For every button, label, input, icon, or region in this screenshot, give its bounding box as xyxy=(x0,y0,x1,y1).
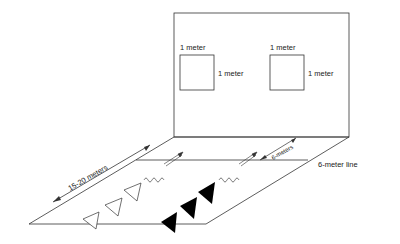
six-meter-line-label: 6-meter line xyxy=(318,160,358,169)
player-black-3 xyxy=(198,182,215,204)
target-square-right xyxy=(270,55,304,90)
player-black-2 xyxy=(180,197,197,219)
target-left-top-label: 1 meter xyxy=(180,43,206,52)
target-right-top-label: 1 meter xyxy=(270,43,296,52)
throw-path-left xyxy=(144,152,183,182)
throw-path-right xyxy=(219,152,257,182)
target-left-side-label: 1 meter xyxy=(218,69,244,78)
throwing-drill-diagram: 1 meter 1 meter 1 meter 1 meter 6-meter … xyxy=(0,0,400,244)
player-white-2 xyxy=(105,198,122,216)
target-right-side-label: 1 meter xyxy=(308,69,334,78)
player-black-1 xyxy=(161,212,177,233)
target-square-left xyxy=(180,55,214,90)
player-white-1 xyxy=(83,212,99,229)
player-white-3 xyxy=(124,183,141,201)
